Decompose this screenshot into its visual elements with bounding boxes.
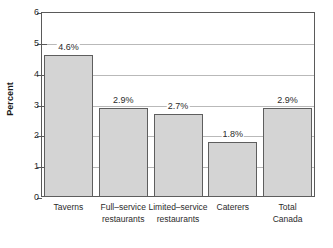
bar-value-label: 1.8%: [222, 129, 245, 139]
y-axis-title-text: Percent: [5, 82, 15, 116]
bar[interactable]: [263, 108, 312, 197]
y-axis-tick-label: 2: [19, 130, 39, 140]
y-axis-tick-label: 3: [19, 100, 39, 110]
bar[interactable]: [208, 142, 257, 198]
bar-value-label: 2.7%: [167, 101, 190, 111]
y-axis-tick-label: 6: [19, 7, 39, 17]
bar-value-label: 4.6%: [57, 42, 80, 52]
gridline: [42, 44, 314, 45]
y-axis-tick-label: 1: [19, 161, 39, 171]
x-axis-category-label: Total Canada: [253, 202, 322, 225]
y-axis-tick-inner: [42, 44, 47, 45]
y-axis-tick-label: 4: [19, 69, 39, 79]
bar-chart: Percent 01234564.6%Taverns2.9%Full–servi…: [0, 0, 333, 248]
bar[interactable]: [99, 108, 148, 197]
y-axis-title: Percent: [0, 0, 20, 197]
y-axis-tick-label: 5: [19, 38, 39, 48]
bar-value-label: 2.9%: [112, 95, 135, 105]
bar[interactable]: [44, 55, 93, 197]
bar[interactable]: [154, 114, 203, 197]
bar-value-label: 2.9%: [276, 95, 299, 105]
y-axis-tick-label: 0: [19, 192, 39, 202]
